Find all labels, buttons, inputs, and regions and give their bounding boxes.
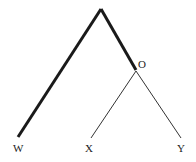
leaf-label-y: Y xyxy=(177,142,185,154)
edge-o-x xyxy=(91,71,136,138)
edge-o-y xyxy=(136,71,181,138)
edge-root-w xyxy=(18,9,101,137)
tree-diagram: O W X Y xyxy=(0,0,196,162)
leaf-label-w: W xyxy=(13,142,24,154)
node-label-o: O xyxy=(138,58,146,70)
leaf-label-x: X xyxy=(85,142,93,154)
edge-root-o xyxy=(101,9,136,70)
